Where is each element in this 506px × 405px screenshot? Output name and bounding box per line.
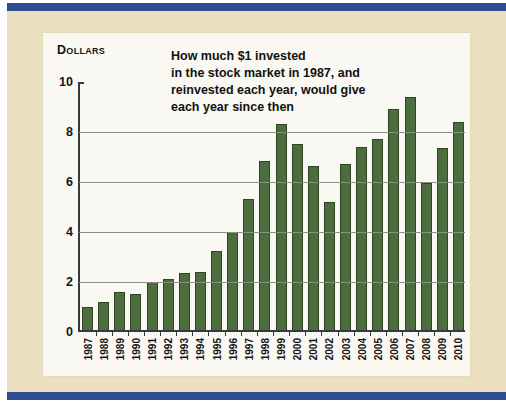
bar-slot: 1989 [114,82,125,332]
bar-2003 [340,164,351,332]
x-axis-label: 1991 [147,338,158,360]
y-tick-label: 8 [43,125,73,139]
chart-panel: Dollars How much $1 invested in the stoc… [43,33,470,376]
y-tick-label: 6 [43,175,73,189]
bar-2004 [356,147,367,332]
x-axis-tick [225,332,226,336]
x-axis-label: 1998 [259,338,270,360]
bar-2000 [292,144,303,332]
x-axis-tick [241,332,242,336]
bar-slot: 2003 [340,82,351,332]
y-axis-line [78,82,80,332]
x-axis-label: 2010 [453,338,464,360]
y-axis-unit-label: Dollars [57,43,105,57]
x-axis-tick [386,332,387,336]
x-axis-label: 2009 [437,338,448,360]
bar-slot: 2010 [453,82,464,332]
x-axis-label: 2002 [324,338,335,360]
bar-slot: 2005 [372,82,383,332]
x-axis-label: 1989 [114,338,125,360]
gridline [79,132,465,133]
x-axis-tick [338,332,339,336]
x-axis-label: 1999 [276,338,287,360]
y-axis-tick-labels: 0246810 [43,82,73,332]
x-axis-label: 2000 [292,338,303,360]
bar-slot: 1987 [82,82,93,332]
x-axis-tick [450,332,451,336]
bar-slot: 2000 [292,82,303,332]
bar-2010 [453,122,464,332]
x-axis-label: 1990 [130,338,141,360]
x-axis-tick [273,332,274,336]
chart-card-background: Dollars How much $1 invested in the stoc… [7,11,506,392]
x-axis-label: 2003 [340,338,351,360]
bar-slot: 1998 [259,82,270,332]
bar-1995 [211,251,222,332]
x-axis-tick [176,332,177,336]
bar-slot: 2004 [356,82,367,332]
bars-container: 1987198819891990199119921993199419951996… [82,82,464,332]
bar-1987 [82,307,93,332]
x-axis-tick [128,332,129,336]
bar-2001 [308,166,319,332]
bar-1991 [147,282,158,332]
bar-slot: 2008 [421,82,432,332]
x-axis-tick [418,332,419,336]
x-axis-tick [144,332,145,336]
x-axis-tick [434,332,435,336]
gridline [79,232,465,233]
page: Dollars How much $1 invested in the stoc… [0,0,506,405]
top-border-bar [7,3,506,11]
bar-slot: 1997 [243,82,254,332]
x-axis-tick [354,332,355,336]
y-tick-label: 2 [43,275,73,289]
bar-slot: 2007 [405,82,416,332]
x-axis-label: 1994 [195,338,206,360]
gridline [79,182,465,183]
bar-slot: 1993 [179,82,190,332]
x-axis-tick [112,332,113,336]
x-axis-label: 2001 [308,338,319,360]
x-axis-tick [208,332,209,336]
x-axis-tick [257,332,258,336]
x-axis-tick [305,332,306,336]
y-tick-label: 4 [43,225,73,239]
bar-slot: 1994 [195,82,206,332]
bar-slot: 1991 [147,82,158,332]
bar-1989 [114,292,125,332]
x-axis-tick [160,332,161,336]
x-axis-baseline [78,330,465,332]
x-axis-tick [402,332,403,336]
x-axis-label: 2008 [421,338,432,360]
bar-slot: 2009 [437,82,448,332]
bar-2002 [324,202,335,332]
x-axis-label: 2007 [405,338,416,360]
bar-slot: 1996 [227,82,238,332]
bar-slot: 2001 [308,82,319,332]
x-axis-tick [321,332,322,336]
x-axis-tick [96,332,97,336]
bar-2005 [372,139,383,332]
x-axis-label: 1988 [98,338,109,360]
y-tick-label: 10 [43,75,73,89]
x-axis-label: 1987 [82,338,93,360]
bar-slot: 1995 [211,82,222,332]
bottom-border-bar [7,392,506,400]
x-axis-label: 1996 [227,338,238,360]
bar-1998 [259,161,270,332]
bar-slot: 1999 [276,82,287,332]
bar-1990 [130,294,141,332]
gridline [79,282,465,283]
bar-slot: 1992 [163,82,174,332]
bar-1999 [276,124,287,332]
x-axis-label: 1992 [163,338,174,360]
x-axis-tick [192,332,193,336]
bar-2008 [421,183,432,332]
x-axis-label: 1993 [179,338,190,360]
bar-2006 [388,109,399,332]
bar-slot: 2002 [324,82,335,332]
x-axis-tick [370,332,371,336]
x-axis-label: 2004 [356,338,367,360]
bar-1992 [163,279,174,332]
x-axis-tick [289,332,290,336]
